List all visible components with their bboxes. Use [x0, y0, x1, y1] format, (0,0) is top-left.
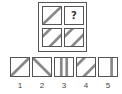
diagonal-stripe-icon [11, 58, 29, 76]
grid-cell-top-left [42, 6, 62, 25]
double-diagonal-stripes-icon [65, 29, 83, 46]
option-5-label: 5 [98, 81, 118, 90]
question-mark: ? [65, 7, 83, 24]
vertical-stripes-icon [55, 58, 73, 76]
diagonal-stripe-icon [43, 7, 61, 24]
double-diagonal-stripes-icon [43, 29, 61, 46]
option-5[interactable] [98, 57, 118, 77]
option-2-label: 2 [32, 81, 52, 90]
option-3-label: 3 [54, 81, 74, 90]
grid-cell-bottom-right [64, 28, 84, 47]
puzzle-grid-frame: ? [38, 2, 87, 52]
grid-cell-top-right: ? [64, 6, 84, 25]
double-diagonal-stripes-icon [77, 58, 95, 76]
option-3[interactable] [54, 57, 74, 77]
vertical-stripe-icon [99, 58, 117, 76]
option-1-label: 1 [10, 81, 30, 90]
grid-cell-bottom-left [42, 28, 62, 47]
option-4[interactable] [76, 57, 96, 77]
reverse-diagonal-stripe-icon [33, 58, 51, 76]
option-2[interactable] [32, 57, 52, 77]
option-1[interactable] [10, 57, 30, 77]
option-4-label: 4 [76, 81, 96, 90]
